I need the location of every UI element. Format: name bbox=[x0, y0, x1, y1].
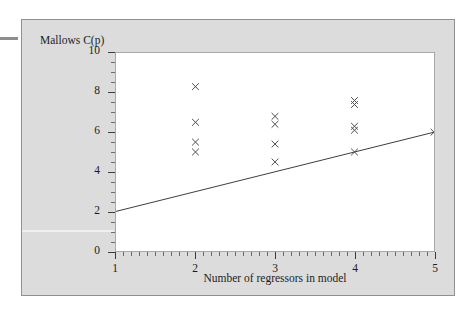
scatter-marker bbox=[272, 121, 279, 128]
scatter-marker bbox=[351, 123, 358, 130]
scatter-marker bbox=[192, 149, 199, 156]
scatter-marker bbox=[351, 97, 358, 104]
scatter-marker bbox=[351, 127, 358, 134]
x-axis-title: Number of regressors in model bbox=[115, 272, 435, 284]
scatter-marker bbox=[272, 159, 279, 166]
scatter-markers bbox=[192, 83, 434, 165]
scatter-marker bbox=[192, 119, 199, 126]
scatter-marker bbox=[272, 113, 279, 120]
scatter-marker bbox=[351, 101, 358, 108]
scatter-marker bbox=[192, 83, 199, 90]
left-edge-dash-mark bbox=[0, 37, 18, 40]
background-streak-artifact bbox=[22, 230, 114, 232]
y-axis-title: Mallows C(p) bbox=[40, 34, 104, 46]
plot-area bbox=[115, 52, 435, 252]
scatter-marker bbox=[192, 139, 199, 146]
scatter-marker bbox=[272, 141, 279, 148]
plot-canvas bbox=[116, 53, 434, 251]
scatter-marker bbox=[351, 149, 358, 156]
